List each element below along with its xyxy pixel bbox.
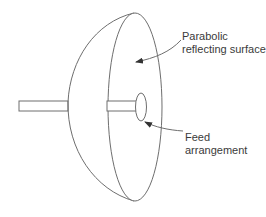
- rear-support-shaft: [19, 101, 68, 111]
- feed-horn: [136, 93, 147, 121]
- feed-label: Feed arrangement: [185, 131, 247, 157]
- feed-label-line1: Feed: [185, 131, 247, 144]
- reflector-label-line1: Parabolic: [182, 30, 266, 43]
- reflector-label: Parabolic reflecting surface: [182, 30, 266, 56]
- reflector-label-line2: reflecting surface: [182, 43, 266, 56]
- feed-label-line2: arrangement: [185, 144, 247, 157]
